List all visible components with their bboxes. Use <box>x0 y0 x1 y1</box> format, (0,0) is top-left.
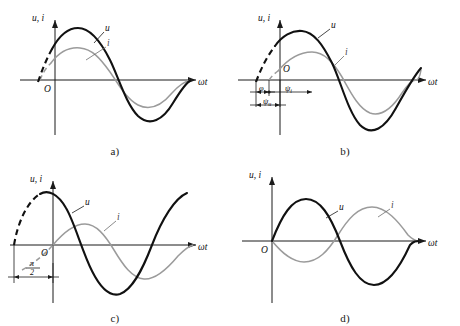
y-axis-arrow-icon <box>50 181 56 189</box>
voltage-label-leader-b <box>318 29 330 38</box>
y-axis-arrow-icon <box>52 20 58 28</box>
voltage-label-leader-c <box>72 206 84 213</box>
axes-group-b <box>238 20 426 135</box>
panel-c: π 2 u i u, i ωt O c) <box>0 163 230 326</box>
quarter-arrow-left-icon <box>14 275 19 279</box>
current-label-b: i <box>345 47 348 57</box>
origin-label-d: O <box>261 245 268 255</box>
quarter-phase-annotation-c: π 2 <box>8 245 59 283</box>
axes-group-c <box>10 181 196 303</box>
panel-d: u i u, i ωt O d) <box>230 163 460 326</box>
panel-caption-a: a) <box>0 145 230 157</box>
current-curve-b <box>278 52 421 114</box>
panel-a: u i u, i ωt O a) <box>0 0 230 163</box>
y-axis-arrow-icon <box>277 20 283 28</box>
panel-caption-d: d) <box>230 312 460 324</box>
voltage-curve-d <box>272 199 419 285</box>
psi-i-arrow-right-icon <box>307 90 312 94</box>
current-label-d: i <box>391 200 394 210</box>
current-label-leader-c <box>104 221 116 231</box>
voltage-curve-c <box>40 192 187 294</box>
quarter-arrow-right-icon <box>48 275 53 279</box>
psi-i-label-b: ψi <box>285 83 292 94</box>
y-axis-label-a: u, i <box>32 13 45 23</box>
quarter-denominator-c: 2 <box>30 268 34 277</box>
panel-d-plot: u i u, i ωt O <box>230 163 460 326</box>
voltage-label-b: u <box>331 20 336 30</box>
y-axis-label-d: u, i <box>249 170 262 180</box>
current-label-leader-a <box>86 47 106 60</box>
quarter-numerator-c: π <box>30 259 35 268</box>
voltage-label-a: u <box>105 23 110 33</box>
x-axis-label-d: ωt <box>428 238 438 248</box>
origin-label-c: O <box>41 248 48 258</box>
current-curve-lead-b <box>269 71 278 80</box>
voltage-curve-a <box>52 28 191 121</box>
x-axis-label-c: ωt <box>198 242 208 252</box>
current-label-leader-b <box>334 56 344 66</box>
voltage-curve-lead-c <box>14 194 40 245</box>
y-axis-label-c: u, i <box>30 174 43 184</box>
x-axis-label-a: ωt <box>198 77 208 87</box>
panel-caption-b: b) <box>230 145 460 157</box>
panel-b-plot: φ ψi ψu u i u, i ωt O <box>230 0 460 163</box>
y-axis-arrow-icon <box>269 177 275 185</box>
origin-label-b: O <box>283 64 290 74</box>
psi-u-arrow-right-icon <box>275 103 280 107</box>
phase-diagram-figure: u i u, i ωt O a) <box>0 0 460 326</box>
current-label-c: i <box>117 212 120 222</box>
current-curve-a <box>51 48 191 108</box>
voltage-curve-lead-a <box>38 49 52 82</box>
current-curve-c <box>53 224 193 279</box>
psi-u-label-b: ψu <box>263 96 271 107</box>
origin-label-a: O <box>44 84 51 94</box>
phi-label-b: φ <box>259 83 264 93</box>
panel-caption-c: c) <box>0 312 230 324</box>
panel-b: φ ψi ψu u i u, i ωt O b) <box>230 0 460 163</box>
current-label-a: i <box>107 38 110 48</box>
y-axis-label-b: u, i <box>258 13 271 23</box>
panel-a-plot: u i u, i ωt O <box>0 0 230 163</box>
voltage-curve-b <box>275 31 421 131</box>
voltage-label-c: u <box>85 197 90 207</box>
panel-c-plot: π 2 u i u, i ωt O <box>0 163 230 326</box>
voltage-label-d: u <box>339 202 344 212</box>
psi-u-arrow-left-icon <box>256 103 261 107</box>
current-curve-lead-c <box>22 245 53 270</box>
x-axis-label-b: ωt <box>428 77 438 87</box>
phase-junction-dot <box>267 90 270 93</box>
